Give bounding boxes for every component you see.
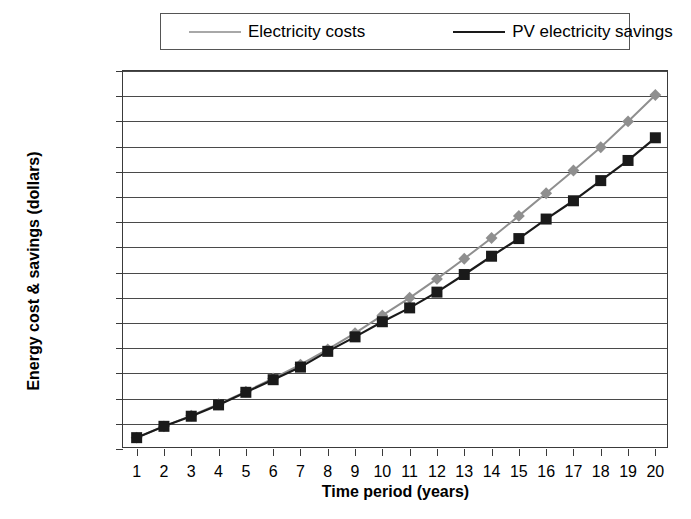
x-tick-label: 1 bbox=[122, 463, 152, 481]
y-tick bbox=[116, 197, 123, 198]
x-tick bbox=[273, 449, 274, 456]
x-tick bbox=[546, 449, 547, 456]
square-marker-icon bbox=[186, 411, 197, 422]
square-marker-icon bbox=[158, 421, 169, 432]
x-tick-label: 12 bbox=[422, 463, 452, 481]
x-tick-label: 4 bbox=[204, 463, 234, 481]
x-tick bbox=[519, 449, 520, 456]
square-marker-icon bbox=[568, 195, 579, 206]
x-tick bbox=[464, 449, 465, 456]
legend-item-electricity-costs: Electricity costs bbox=[189, 22, 365, 42]
y-tick bbox=[116, 348, 123, 349]
plot-area: 0200040006000800010,00012,00014,00016,00… bbox=[122, 70, 668, 448]
x-tick bbox=[246, 449, 247, 456]
y-tick bbox=[116, 399, 123, 400]
y-tick bbox=[116, 71, 123, 72]
legend-item-pv-electricity-savings: PV electricity savings bbox=[453, 22, 673, 42]
square-marker-icon bbox=[486, 251, 497, 262]
data-series-layer bbox=[123, 71, 669, 449]
legend-label-1: Electricity costs bbox=[248, 22, 365, 42]
square-marker-icon bbox=[213, 399, 224, 410]
x-tick bbox=[655, 449, 656, 456]
x-tick-label: 11 bbox=[395, 463, 425, 481]
y-tick bbox=[116, 247, 123, 248]
diamond-marker-icon bbox=[404, 292, 416, 304]
chart-figure: Electricity costs PV electricity savings… bbox=[0, 0, 691, 519]
x-tick-label: 6 bbox=[258, 463, 288, 481]
y-tick bbox=[116, 121, 123, 122]
x-tick bbox=[628, 449, 629, 456]
x-tick bbox=[219, 449, 220, 456]
square-marker-icon bbox=[322, 346, 333, 357]
y-tick bbox=[116, 298, 123, 299]
y-axis-title: Energy cost & savings (dollars) bbox=[25, 106, 43, 436]
square-marker-icon bbox=[459, 269, 470, 280]
x-tick bbox=[137, 449, 138, 456]
square-marker-icon bbox=[295, 362, 306, 373]
square-marker-icon bbox=[541, 214, 552, 225]
x-tick bbox=[573, 449, 574, 456]
x-tick bbox=[492, 449, 493, 456]
diamond-marker-icon bbox=[189, 25, 241, 39]
x-tick bbox=[437, 449, 438, 456]
square-marker-icon bbox=[623, 155, 634, 166]
x-tick bbox=[300, 449, 301, 456]
x-axis-title: Time period (years) bbox=[122, 483, 669, 501]
x-tick-label: 2 bbox=[149, 463, 179, 481]
square-marker-icon bbox=[268, 374, 279, 385]
y-tick bbox=[116, 147, 123, 148]
x-tick-label: 5 bbox=[231, 463, 261, 481]
x-tick-label: 16 bbox=[531, 463, 561, 481]
y-tick bbox=[116, 449, 123, 450]
y-tick bbox=[116, 96, 123, 97]
x-tick bbox=[382, 449, 383, 456]
x-tick-label: 19 bbox=[613, 463, 643, 481]
y-tick bbox=[116, 172, 123, 173]
x-tick-label: 20 bbox=[640, 463, 670, 481]
x-tick bbox=[164, 449, 165, 456]
series-line bbox=[137, 138, 656, 438]
x-tick-label: 15 bbox=[504, 463, 534, 481]
x-tick-label: 14 bbox=[477, 463, 507, 481]
square-marker-icon bbox=[377, 316, 388, 327]
x-tick-label: 8 bbox=[313, 463, 343, 481]
legend-label-2: PV electricity savings bbox=[512, 22, 673, 42]
square-marker-icon bbox=[240, 387, 251, 398]
series-2 bbox=[131, 132, 661, 443]
square-marker-icon bbox=[650, 132, 661, 143]
series-line bbox=[137, 95, 656, 438]
series-1 bbox=[131, 89, 662, 444]
x-tick bbox=[601, 449, 602, 456]
y-tick bbox=[116, 373, 123, 374]
x-tick-label: 13 bbox=[449, 463, 479, 481]
x-tick-label: 3 bbox=[176, 463, 206, 481]
y-tick bbox=[116, 424, 123, 425]
square-marker-icon bbox=[453, 25, 505, 39]
y-tick bbox=[116, 222, 123, 223]
chart-legend: Electricity costs PV electricity savings bbox=[160, 13, 630, 50]
x-tick bbox=[355, 449, 356, 456]
x-tick bbox=[410, 449, 411, 456]
square-marker-icon bbox=[595, 175, 606, 186]
square-marker-icon bbox=[404, 302, 415, 313]
square-marker-icon bbox=[513, 233, 524, 244]
square-marker-icon bbox=[131, 432, 142, 443]
x-tick-label: 18 bbox=[586, 463, 616, 481]
y-tick bbox=[116, 273, 123, 274]
square-marker-icon bbox=[350, 331, 361, 342]
x-tick bbox=[191, 449, 192, 456]
x-tick-label: 9 bbox=[340, 463, 370, 481]
x-tick-label: 10 bbox=[367, 463, 397, 481]
x-tick-label: 17 bbox=[558, 463, 588, 481]
x-tick-label: 7 bbox=[285, 463, 315, 481]
x-tick bbox=[328, 449, 329, 456]
y-tick bbox=[116, 323, 123, 324]
square-marker-icon bbox=[431, 287, 442, 298]
